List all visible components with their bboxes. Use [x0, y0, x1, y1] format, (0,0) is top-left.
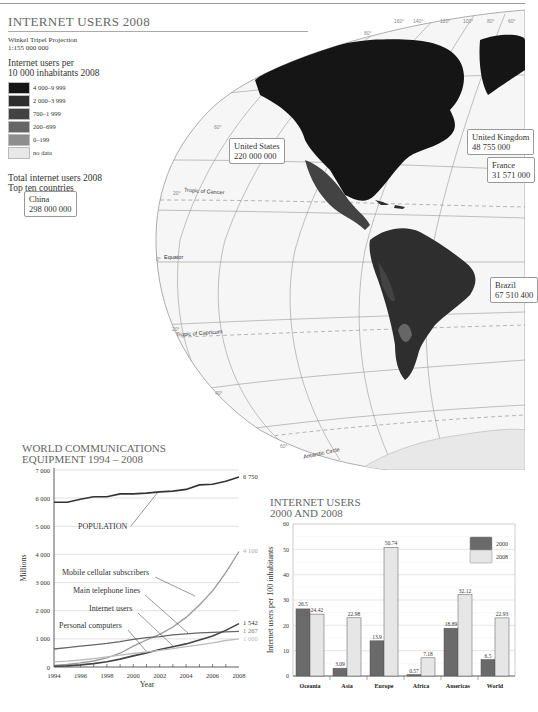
- svg-text:40: 40: [283, 572, 289, 578]
- callout-brazil: Brazil 67 510 400: [490, 277, 538, 303]
- svg-text:24.42: 24.42: [311, 607, 324, 613]
- longitude-label: 100°: [463, 18, 473, 24]
- legend-swatch: [8, 134, 30, 146]
- svg-text:Europe: Europe: [375, 683, 394, 689]
- svg-text:1 000: 1 000: [35, 635, 50, 642]
- mobile-label: Mobile cellular subscribers: [62, 568, 149, 577]
- legend-swatch: [8, 147, 30, 159]
- top-ten-heading: Total internet users 2008 Top ten countr…: [8, 173, 102, 193]
- legend: Internet users per 10 000 inhabitants 20…: [8, 58, 100, 159]
- line-chart-title: WORLD COMMUNICATIONS EQUIPMENT 1994 – 20…: [22, 443, 166, 465]
- svg-text:50: 50: [283, 547, 289, 553]
- svg-text:22.98: 22.98: [348, 611, 361, 617]
- svg-text:3.09: 3.09: [335, 661, 345, 667]
- latitude-label: 0°: [156, 256, 161, 262]
- latitude-label: 20°: [173, 190, 181, 196]
- legend-item: 700–1 999: [8, 107, 100, 120]
- population-end-label: 6 750: [243, 473, 258, 480]
- latitude-label: 80°: [364, 30, 372, 36]
- svg-text:3 000: 3 000: [35, 579, 50, 586]
- svg-text:30: 30: [283, 597, 289, 603]
- svg-text:60: 60: [283, 521, 289, 527]
- svg-text:Americas: Americas: [446, 683, 471, 689]
- internet-end-label: 1 542: [243, 619, 258, 626]
- svg-text:6 000: 6 000: [35, 495, 50, 502]
- longitude-label: 80°: [487, 18, 495, 24]
- svg-text:5 000: 5 000: [35, 523, 50, 530]
- latitude-label: 60°: [214, 124, 222, 130]
- longitude-label: 60°: [508, 18, 516, 24]
- svg-text:Oceania: Oceania: [300, 683, 321, 689]
- legend-item: 2 000–3 999: [8, 94, 100, 107]
- svg-text:20: 20: [283, 623, 289, 629]
- legend-item: 4 000–9 999: [8, 81, 100, 94]
- svg-text:0.57: 0.57: [409, 668, 419, 674]
- legend-item: 200–699: [8, 120, 100, 133]
- svg-text:50.74: 50.74: [385, 540, 398, 546]
- svg-text:7 000: 7 000: [35, 467, 50, 474]
- callout-china: China 298 000 000: [24, 191, 77, 217]
- population-label: POPULATION: [78, 522, 128, 531]
- bar-chart-title: INTERNET USERS 2000 AND 2008: [270, 497, 361, 519]
- callout-united-kingdom: United Kingdom 48 755 000: [467, 129, 534, 155]
- svg-text:World: World: [487, 683, 504, 689]
- svg-text:1996: 1996: [74, 672, 88, 679]
- legend-swatch: [8, 108, 30, 120]
- svg-text:18.89: 18.89: [445, 621, 458, 627]
- svg-text:6.5: 6.5: [485, 653, 492, 659]
- legend-heading-1: Internet users per: [8, 58, 100, 68]
- svg-text:Africa: Africa: [413, 683, 429, 689]
- svg-text:2000: 2000: [127, 672, 140, 679]
- category-labels: Oceania Asia Europe Africa Americas Worl…: [300, 683, 504, 689]
- svg-text:2000: 2000: [496, 541, 508, 547]
- svg-text:2 000: 2 000: [35, 607, 50, 614]
- line-chart: 7 000 6 000 5 000 4 000 3 000 2 000 1 00…: [0, 465, 265, 712]
- map-title: INTERNET USERS 2008: [8, 14, 150, 30]
- svg-text:1994: 1994: [48, 672, 62, 679]
- x-axis-label: Year: [140, 680, 155, 689]
- y-axis-label: Internet users per 100 inhabitants: [266, 547, 275, 654]
- latitude-label: 60°: [280, 443, 288, 449]
- x-axis-ticks: 1994 1996 1998 2000 2002 2004 2006 2008: [48, 672, 246, 679]
- legend-item: no data: [8, 146, 100, 159]
- population-line: [54, 477, 239, 502]
- svg-text:2006: 2006: [206, 672, 220, 679]
- svg-text:26.5: 26.5: [298, 601, 308, 607]
- svg-text:Asia: Asia: [341, 683, 352, 689]
- svg-text:32.12: 32.12: [459, 588, 472, 594]
- svg-text:22.93: 22.93: [496, 611, 509, 617]
- telephone-label: Main telephone lines: [73, 586, 140, 595]
- callout-united-states: United States 220 000 000: [229, 138, 285, 164]
- svg-text:10: 10: [283, 648, 289, 654]
- svg-text:1998: 1998: [100, 672, 113, 679]
- svg-text:7.18: 7.18: [423, 651, 433, 657]
- svg-text:2008: 2008: [496, 554, 508, 560]
- longitude-label: 120°: [440, 18, 450, 24]
- svg-text:2002: 2002: [153, 672, 166, 679]
- title-rule: [8, 31, 308, 32]
- callout-france: France 31 571 000: [487, 157, 535, 183]
- bar-chart: 6050403020100 Internet users per 100 inh…: [260, 520, 525, 712]
- legend-swatch: [8, 82, 30, 94]
- svg-text:2008: 2008: [233, 672, 246, 679]
- legend-swatch: [8, 95, 30, 107]
- equator-label: Equator: [164, 254, 183, 260]
- svg-text:2004: 2004: [180, 672, 194, 679]
- y-axis-ticks: 6050403020100: [283, 521, 289, 679]
- svg-text:0: 0: [47, 664, 50, 671]
- scale-label: 1:155 000 000: [8, 44, 48, 53]
- legend-item: 0–199: [8, 133, 100, 146]
- svg-text:4 000: 4 000: [35, 551, 50, 558]
- internet-label: Internet users: [89, 604, 132, 613]
- longitude-label: 140°: [413, 18, 423, 24]
- latitude-label: 40°: [215, 390, 223, 396]
- personal-computers-line: [54, 639, 239, 662]
- y-axis-label: Millions: [19, 554, 28, 581]
- svg-text:0: 0: [286, 673, 289, 679]
- telephone-end-label: 1 267: [243, 627, 258, 634]
- latitude-label: 20°: [172, 326, 180, 332]
- legend-swatch: [8, 121, 30, 133]
- legend-heading-2: 10 000 inhabitants 2008: [8, 68, 100, 78]
- svg-text:13.9: 13.9: [372, 634, 382, 640]
- longitude-label: 160°: [394, 18, 404, 24]
